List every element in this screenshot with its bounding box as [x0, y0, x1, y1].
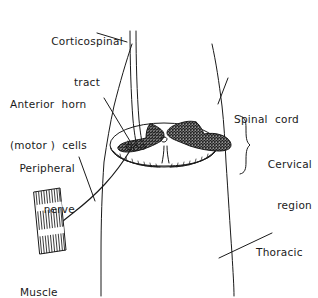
- label-muscle-line1: Muscle: [20, 286, 90, 298]
- label-thoracic: Thoracic: [256, 219, 316, 287]
- label-peripheral-nerve: Peripheral nerve: [2, 135, 75, 243]
- cut-face-hatching: [120, 154, 208, 167]
- label-muscle: Muscle: [20, 259, 90, 298]
- figure-canvas: Corticospinal tract Anterior horn (motor…: [0, 0, 318, 298]
- label-peripheral-nerve-line1: Peripheral: [2, 162, 75, 176]
- leader-spinal-cord: [218, 78, 228, 104]
- anterior-median-fissure: [167, 146, 169, 163]
- white-matter-arc-right: [170, 151, 215, 167]
- grey-matter-right: [167, 121, 231, 151]
- label-cervical-region-line2: region: [252, 199, 312, 213]
- label-thoracic-line1: Thoracic: [256, 246, 316, 260]
- label-cervical-region-line1: Cervical: [252, 158, 312, 172]
- label-corticospinal-tract-line1: Corticospinal: [22, 35, 152, 49]
- label-spinal-cord-line1: Spinal cord: [234, 113, 318, 127]
- label-peripheral-nerve-line2: nerve: [2, 203, 75, 217]
- neck-outline-right: [212, 44, 234, 296]
- posterior-median-fissure: [162, 146, 164, 163]
- label-anterior-horn-cells-line1: Anterior horn: [10, 98, 130, 112]
